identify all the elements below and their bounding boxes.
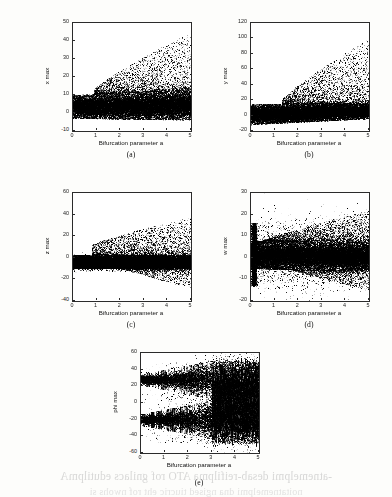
y-tick-label: 30 bbox=[230, 189, 247, 194]
x-tick-mark bbox=[164, 450, 165, 453]
x-tick-label: 3 bbox=[141, 133, 144, 138]
x-tick-mark bbox=[119, 298, 120, 301]
x-tick-label: 5 bbox=[189, 133, 192, 138]
x-tick-label: 2 bbox=[296, 133, 299, 138]
y-tick-mark bbox=[72, 76, 75, 77]
y-tick-label: 40 bbox=[120, 366, 137, 371]
panel-caption-c: (c) bbox=[72, 320, 190, 329]
page-showthrough-line-2: noitatnemelpmi dna ngised tiucric eht ro… bbox=[0, 486, 392, 497]
x-tick-mark bbox=[96, 298, 97, 301]
y-tick-label: 10 bbox=[52, 91, 69, 96]
y-tick-mark bbox=[250, 84, 253, 85]
x-tick-label: 2 bbox=[296, 303, 299, 308]
x-tick-mark bbox=[274, 298, 275, 301]
y-tick-label: 50 bbox=[52, 19, 69, 24]
x-axis-label-e: Bifurcation parameter a bbox=[140, 462, 258, 468]
x-tick-label: 4 bbox=[343, 303, 346, 308]
x-tick-mark bbox=[250, 298, 251, 301]
y-axis-label-d: w max bbox=[222, 237, 228, 255]
y-tick-label: -20 bbox=[52, 276, 69, 281]
x-tick-mark bbox=[166, 128, 167, 131]
y-tick-mark bbox=[72, 58, 75, 59]
y-tick-mark bbox=[140, 385, 143, 386]
y-tick-label: 60 bbox=[120, 349, 137, 354]
panel-caption-a: (a) bbox=[72, 150, 190, 159]
x-axis-label-d: Bifurcation parameter a bbox=[250, 310, 368, 316]
y-axis-label-c: z max bbox=[44, 238, 50, 255]
x-tick-label: 5 bbox=[367, 133, 370, 138]
y-tick-label: 0 bbox=[120, 399, 137, 404]
y-tick-mark bbox=[140, 352, 143, 353]
x-tick-mark bbox=[119, 128, 120, 131]
y-tick-label: 20 bbox=[230, 211, 247, 216]
x-tick-mark bbox=[187, 450, 188, 453]
x-axis-label-c: Bifurcation parameter a bbox=[72, 310, 190, 316]
y-tick-label: -40 bbox=[52, 297, 69, 302]
x-tick-label: 4 bbox=[165, 303, 168, 308]
y-tick-mark bbox=[72, 192, 75, 193]
y-tick-label: 80 bbox=[230, 50, 247, 55]
x-tick-label: 2 bbox=[118, 133, 121, 138]
x-tick-mark bbox=[96, 128, 97, 131]
y-tick-label: -20 bbox=[230, 297, 247, 302]
y-tick-mark bbox=[250, 278, 253, 279]
y-tick-label: 30 bbox=[52, 55, 69, 60]
x-tick-label: 4 bbox=[165, 133, 168, 138]
y-tick-mark bbox=[72, 257, 75, 258]
panel-caption-d: (d) bbox=[250, 320, 368, 329]
x-tick-label: 5 bbox=[367, 303, 370, 308]
y-tick-mark bbox=[72, 214, 75, 215]
x-tick-mark bbox=[321, 128, 322, 131]
y-tick-mark bbox=[250, 53, 253, 54]
x-tick-label: 2 bbox=[118, 303, 121, 308]
y-tick-label: -10 bbox=[52, 127, 69, 132]
y-tick-mark bbox=[72, 94, 75, 95]
y-tick-label: 20 bbox=[230, 96, 247, 101]
x-tick-label: 4 bbox=[233, 455, 236, 460]
plot-area-c bbox=[72, 192, 192, 302]
scatter-canvas-b bbox=[251, 23, 369, 131]
y-tick-label: 0 bbox=[52, 254, 69, 259]
y-tick-label: 0 bbox=[230, 112, 247, 117]
y-tick-mark bbox=[140, 435, 143, 436]
y-tick-mark bbox=[140, 402, 143, 403]
y-tick-label: -20 bbox=[230, 127, 247, 132]
y-tick-label: 60 bbox=[230, 66, 247, 71]
y-tick-label: 10 bbox=[230, 232, 247, 237]
x-tick-mark bbox=[344, 128, 345, 131]
x-tick-label: 3 bbox=[141, 303, 144, 308]
x-tick-label: 3 bbox=[209, 455, 212, 460]
plot-area-b bbox=[250, 22, 370, 132]
y-tick-mark bbox=[140, 369, 143, 370]
x-tick-mark bbox=[72, 298, 73, 301]
x-tick-mark bbox=[190, 298, 191, 301]
x-tick-label: 1 bbox=[94, 133, 97, 138]
x-tick-label: 0 bbox=[71, 133, 74, 138]
x-tick-mark bbox=[258, 450, 259, 453]
x-tick-label: 5 bbox=[189, 303, 192, 308]
x-tick-mark bbox=[190, 128, 191, 131]
x-tick-label: 0 bbox=[71, 303, 74, 308]
x-tick-mark bbox=[274, 128, 275, 131]
y-tick-mark bbox=[250, 214, 253, 215]
y-tick-label: 0 bbox=[52, 109, 69, 114]
x-tick-label: 5 bbox=[257, 455, 260, 460]
scatter-canvas-d bbox=[251, 193, 369, 301]
y-tick-mark bbox=[250, 37, 253, 38]
y-tick-mark bbox=[72, 112, 75, 113]
y-tick-label: 40 bbox=[52, 211, 69, 216]
y-tick-mark bbox=[72, 40, 75, 41]
y-tick-label: 20 bbox=[120, 383, 137, 388]
y-tick-mark bbox=[250, 235, 253, 236]
x-tick-label: 0 bbox=[139, 455, 142, 460]
y-tick-mark bbox=[250, 68, 253, 69]
y-tick-label: 100 bbox=[230, 35, 247, 40]
x-axis-label-b: Bifurcation parameter a bbox=[250, 140, 368, 146]
x-axis-label-a: Bifurcation parameter a bbox=[72, 140, 190, 146]
x-tick-label: 0 bbox=[249, 133, 252, 138]
x-tick-mark bbox=[297, 298, 298, 301]
y-tick-label: 120 bbox=[230, 19, 247, 24]
y-tick-label: -20 bbox=[120, 416, 137, 421]
x-tick-mark bbox=[143, 128, 144, 131]
x-tick-mark bbox=[234, 450, 235, 453]
